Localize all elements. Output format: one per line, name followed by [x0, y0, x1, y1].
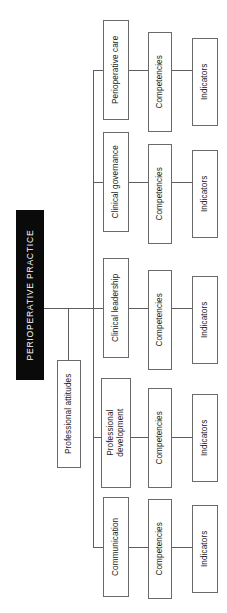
node-domain-professional-development-label: Professional development — [106, 409, 125, 457]
node-indicators-communication: Indicators — [192, 505, 218, 593]
node-competencies-clinical-governance: Competencies — [148, 144, 172, 244]
node-professional-attitudes-label: Professional attitudes — [64, 374, 74, 454]
node-indicators-professional-development-label: Indicators — [200, 420, 210, 457]
connector-row1-domain-to-competencies — [129, 70, 149, 71]
node-domain-clinical-leadership: Clinical leadership — [103, 258, 129, 358]
node-domain-professional-development: Professional development — [101, 378, 131, 488]
node-domain-clinical-governance: Clinical governance — [103, 132, 129, 232]
root-node-perioperative-practice: PERIOPERATIVE PRACTICE — [16, 210, 44, 380]
node-indicators-perioperative-care-label: Indicators — [200, 64, 210, 101]
node-professional-attitudes: Professional attitudes — [57, 360, 81, 468]
node-indicators-perioperative-care: Indicators — [192, 38, 218, 126]
node-competencies-communication: Competencies — [148, 499, 172, 599]
connector-row5-domain-to-competencies — [129, 547, 149, 548]
connector-row3-domain-to-competencies — [129, 308, 149, 309]
node-competencies-communication-label: Competencies — [155, 522, 165, 576]
node-indicators-clinical-governance-label: Indicators — [200, 176, 210, 213]
node-domain-communication-label: Communication — [111, 518, 121, 576]
node-competencies-professional-development: Competencies — [148, 388, 172, 488]
connector-row5-competencies-to-indicators — [172, 547, 192, 548]
node-competencies-perioperative-care-label: Competencies — [155, 55, 165, 109]
connector-row2-domain-to-competencies — [129, 182, 149, 183]
node-competencies-clinical-leadership: Competencies — [148, 270, 172, 370]
node-indicators-clinical-governance: Indicators — [192, 150, 218, 238]
node-competencies-clinical-leadership-label: Competencies — [155, 293, 165, 347]
node-domain-communication: Communication — [103, 497, 129, 597]
node-indicators-clinical-leadership-label: Indicators — [200, 302, 210, 339]
connector-row1-competencies-to-indicators — [172, 70, 192, 71]
connector-row4-domain-to-competencies — [129, 437, 149, 438]
connector-row3-competencies-to-indicators — [172, 308, 192, 309]
connector-row2-competencies-to-indicators — [172, 182, 192, 183]
root-node-label: PERIOPERATIVE PRACTICE — [25, 230, 35, 361]
node-domain-perioperative-care: Perioperative care — [103, 20, 129, 120]
connector-main-spine — [93, 70, 94, 548]
node-indicators-communication-label: Indicators — [200, 531, 210, 568]
node-competencies-perioperative-care: Competencies — [148, 32, 172, 132]
node-domain-clinical-leadership-label: Clinical leadership — [111, 274, 121, 342]
node-indicators-professional-development: Indicators — [192, 394, 218, 482]
node-competencies-professional-development-label: Competencies — [155, 411, 165, 465]
connector-row4-competencies-to-indicators — [172, 437, 192, 438]
node-domain-clinical-governance-label: Clinical governance — [111, 145, 121, 218]
diagram-canvas: PERIOPERATIVE PRACTICE Professional atti… — [0, 0, 227, 613]
node-domain-perioperative-care-label: Perioperative care — [111, 36, 121, 104]
node-competencies-clinical-governance-label: Competencies — [155, 167, 165, 221]
node-indicators-clinical-leadership: Indicators — [192, 276, 218, 364]
